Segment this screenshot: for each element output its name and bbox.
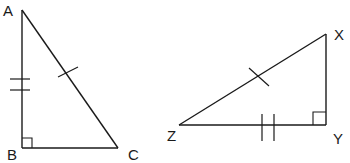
side-ac bbox=[22, 10, 118, 148]
triangle-xyz: X Y Z bbox=[167, 26, 344, 147]
label-b: B bbox=[7, 146, 17, 163]
right-angle-marker-y bbox=[313, 112, 326, 125]
side-zx bbox=[179, 34, 326, 125]
label-z: Z bbox=[167, 127, 176, 144]
label-c: C bbox=[128, 146, 139, 163]
label-a: A bbox=[3, 2, 13, 19]
geometry-diagram: A B C X Y Z bbox=[0, 0, 350, 163]
triangle-abc: A B C bbox=[3, 2, 139, 163]
label-y: Y bbox=[333, 130, 343, 147]
right-angle-marker-b bbox=[22, 138, 32, 148]
label-x: X bbox=[334, 26, 344, 43]
